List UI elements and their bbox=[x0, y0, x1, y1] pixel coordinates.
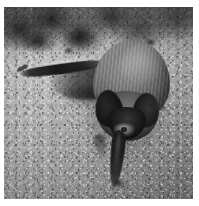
screenshot-canvas: A small bat lying on a speckled concrete… bbox=[0, 0, 199, 206]
bat-body-highlight bbox=[121, 43, 166, 85]
bat-subject bbox=[4, 7, 193, 199]
bat-foot-claw bbox=[111, 177, 128, 191]
photograph bbox=[4, 7, 193, 199]
